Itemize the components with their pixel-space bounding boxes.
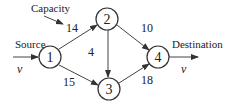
- svg-text:2: 2: [104, 12, 111, 27]
- source-flow-label: v: [17, 62, 23, 76]
- capacity-2-3: 4: [88, 45, 94, 59]
- capacity-3-4: 18: [141, 73, 153, 87]
- destination-label: Destination: [172, 38, 223, 50]
- destination-flow-label: v: [181, 62, 187, 76]
- flow-network-diagram: 1 2 3 4 14 15 4 10 18 Capacity Source v …: [0, 0, 234, 109]
- capacity-1-3: 15: [63, 75, 75, 89]
- svg-text:3: 3: [106, 82, 113, 97]
- capacity-label: Capacity: [31, 2, 71, 14]
- capacity-2-4: 10: [141, 21, 153, 35]
- node-2: 2: [96, 8, 118, 30]
- svg-text:1: 1: [47, 50, 54, 65]
- capacity-1-2: 14: [66, 21, 78, 35]
- capacity-pointer-arrow: [44, 16, 63, 24]
- node-3: 3: [98, 78, 120, 100]
- node-4: 4: [147, 46, 169, 68]
- svg-text:4: 4: [155, 50, 162, 65]
- source-label: Source: [15, 38, 46, 50]
